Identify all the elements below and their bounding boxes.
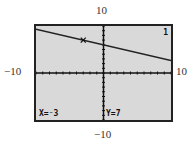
calculator-screen: X=⁻3 Y=7 1 xyxy=(34,24,173,122)
x-min-label: −10 xyxy=(4,65,21,77)
y-max-label: 10 xyxy=(96,4,107,16)
y-min-label: −10 xyxy=(94,128,111,140)
graph-plot xyxy=(36,26,171,120)
x-readout: X=⁻3 xyxy=(39,109,58,118)
y-readout: Y=7 xyxy=(106,109,120,118)
x-max-label: 10 xyxy=(176,65,187,77)
plot-number: 1 xyxy=(163,28,168,37)
